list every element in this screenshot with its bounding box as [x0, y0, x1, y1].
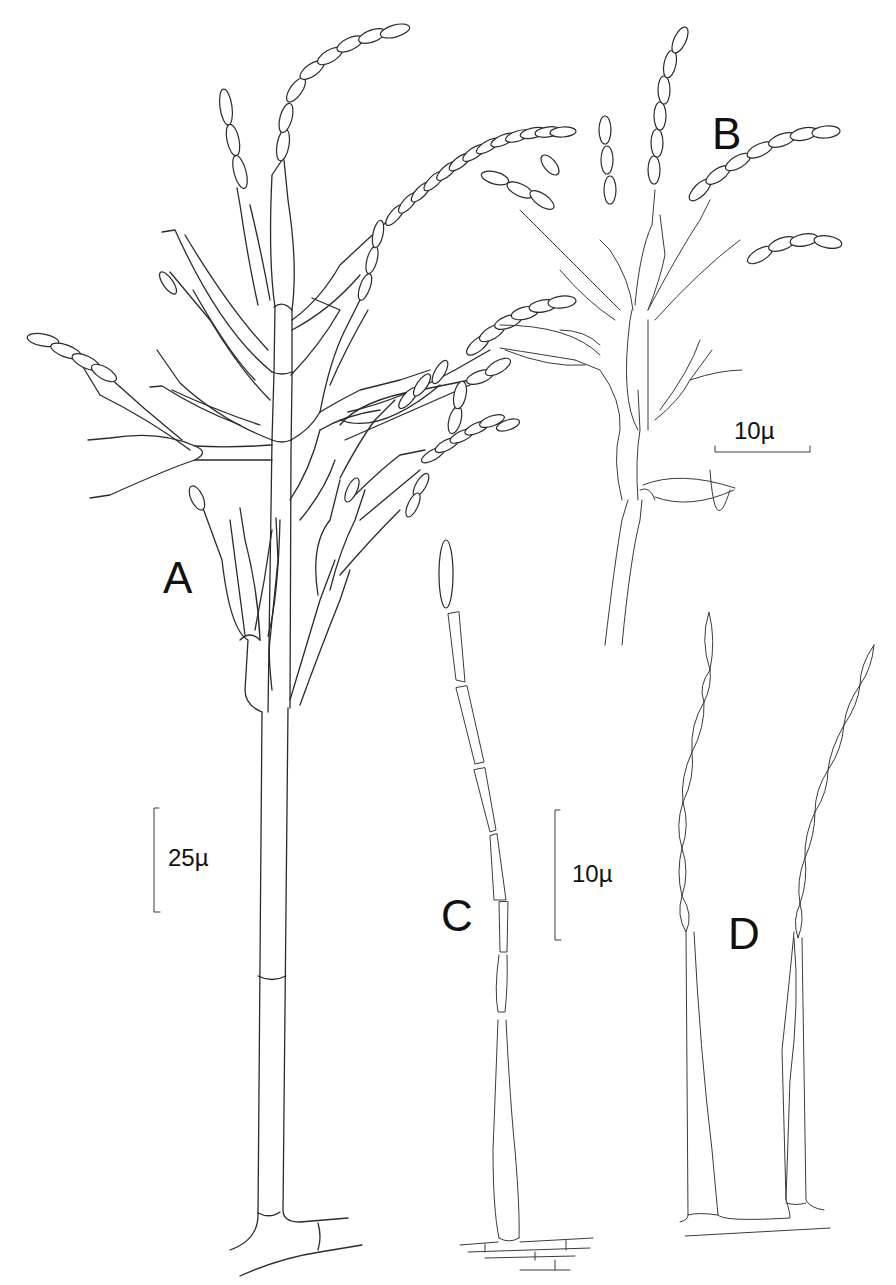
panel-label-b: B [712, 112, 741, 156]
panel-d-conidiophores [679, 612, 874, 1236]
panel-b-conidiophore [480, 25, 843, 645]
panel-label-c: C [441, 894, 473, 938]
scale-label-cd: 10µ [572, 862, 613, 886]
scale-bar-b [715, 446, 810, 452]
panel-a-conidiophore [26, 21, 576, 1276]
figure-drawing [0, 0, 896, 1285]
panel-label-a: A [163, 556, 192, 600]
scale-bar-cd [555, 810, 561, 940]
panel-label-d: D [728, 912, 760, 956]
scale-bar-a [154, 808, 160, 912]
scale-label-a: 25µ [168, 846, 209, 870]
scale-label-b: 10µ [734, 419, 775, 443]
